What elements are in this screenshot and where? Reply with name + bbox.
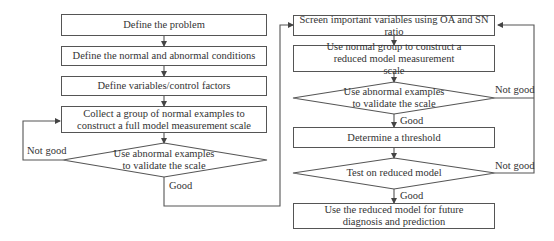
step-screen-variables: Screen important variables using OA and … bbox=[293, 15, 495, 36]
step-label: Define variables/control factors bbox=[98, 80, 231, 92]
step-define-conditions: Define the normal and abnormal condition… bbox=[61, 46, 267, 66]
step-label: Collect a group of normal examples to co… bbox=[68, 108, 260, 132]
step-use-reduced: Use the reduced model for future diagnos… bbox=[293, 203, 495, 229]
right-decision-1-text: Use abnormal examples to validate the sc… bbox=[340, 86, 448, 110]
right-not-good-label-1: Not good bbox=[495, 84, 534, 96]
step-label: Determine a threshold bbox=[347, 132, 440, 144]
step-reduced-scale: Use normal group to construct a reduced … bbox=[293, 45, 495, 72]
step-define-variables: Define variables/control factors bbox=[61, 76, 267, 96]
step-label: Use the reduced model for future diagnos… bbox=[324, 204, 464, 228]
right-decision-2-text: Test on reduced model bbox=[330, 166, 458, 180]
right-good-label-1: Good bbox=[400, 115, 423, 127]
left-good-label: Good bbox=[169, 180, 192, 192]
step-label: Define the normal and abnormal condition… bbox=[73, 50, 256, 62]
left-not-good-label: Not good bbox=[27, 145, 66, 157]
right-good-label-2: Good bbox=[400, 190, 423, 202]
right-not-good-label-2: Not good bbox=[495, 160, 534, 172]
step-collect-normal: Collect a group of normal examples to co… bbox=[61, 106, 267, 133]
step-label: Use normal group to construct a reduced … bbox=[324, 41, 464, 77]
step-define-problem: Define the problem bbox=[61, 14, 267, 36]
step-label: Screen important variables using OA and … bbox=[294, 14, 494, 38]
left-decision-text: Use abnormal examples to validate the sc… bbox=[110, 148, 218, 172]
step-label: Define the problem bbox=[123, 19, 205, 31]
step-threshold: Determine a threshold bbox=[293, 127, 495, 148]
